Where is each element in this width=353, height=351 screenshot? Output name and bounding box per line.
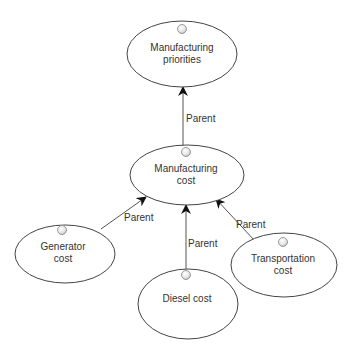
node-circle-icon xyxy=(178,25,187,34)
label-line: cost xyxy=(40,253,85,265)
node-label-transportation-cost: Transportation cost xyxy=(251,253,315,277)
label-line: cost xyxy=(154,175,217,187)
label-line: Transportation xyxy=(251,253,315,265)
edge-label-parent: Parent xyxy=(124,212,153,224)
node-label-manufacturing-priorities: Manufacturing priorities xyxy=(150,42,213,66)
node-circle-icon xyxy=(279,238,288,247)
label-line: cost xyxy=(251,265,315,277)
edge-label-parent: Parent xyxy=(236,219,265,231)
node-circle-icon xyxy=(182,271,191,280)
node-label-manufacturing-cost: Manufacturing cost xyxy=(154,163,217,187)
edge-label-parent: Parent xyxy=(188,238,217,250)
label-line: Generator xyxy=(40,241,85,253)
node-label-diesel-cost: Diesel cost xyxy=(163,293,212,305)
label-line: Diesel cost xyxy=(163,293,212,305)
label-line: Manufacturing xyxy=(150,42,213,54)
node-circle-icon xyxy=(58,226,67,235)
node-label-generator-cost: Generator cost xyxy=(40,241,85,265)
node-circle-icon xyxy=(182,148,191,157)
edge-label-parent: Parent xyxy=(186,113,215,125)
label-line: priorities xyxy=(150,54,213,66)
label-line: Manufacturing xyxy=(154,163,217,175)
diagram-canvas: Manufacturing priorities Manufacturing c… xyxy=(0,0,353,351)
